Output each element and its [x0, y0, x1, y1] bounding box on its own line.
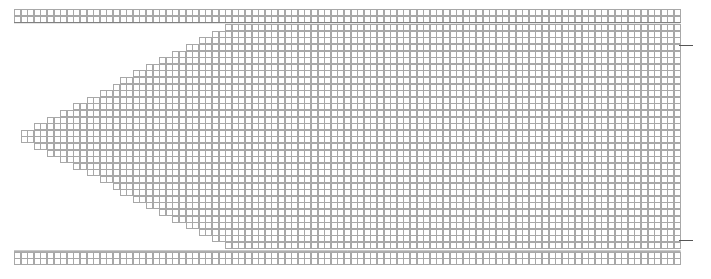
grid-matrix-canvas [0, 0, 711, 279]
right-edge-tick-bottom [679, 240, 693, 241]
right-edge-tick-top [679, 45, 693, 46]
grid-matrix-figure [0, 0, 711, 279]
